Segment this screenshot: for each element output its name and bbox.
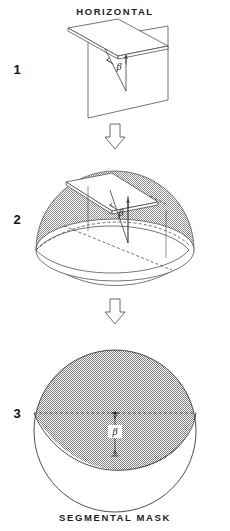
beta-label-panel-2: β [118, 207, 124, 218]
center-point-3 [113, 411, 116, 414]
panel-3-segmental-mask: 3 β SEGMENTAL MASK [13, 332, 196, 523]
title-horizontal: HORIZONTAL [76, 6, 154, 17]
flow-arrow-2-to-3 [105, 299, 125, 324]
title-segmental-mask: SEGMENTAL MASK [59, 512, 171, 523]
panel-1-horizontal: HORIZONTAL 1 β [13, 6, 168, 118]
panel-number-3: 3 [13, 406, 20, 421]
beta-label-panel-3: β [112, 426, 118, 437]
flow-arrow-1-to-2 [105, 124, 125, 149]
panel-number-2: 2 [13, 212, 20, 227]
panel-number-1: 1 [13, 62, 20, 77]
panel-2-sphere-projection: 2 β [13, 171, 194, 290]
segmental-mask-figure: HORIZONTAL 1 β 2 [0, 0, 230, 531]
down-arrow-glyph-1 [105, 124, 125, 149]
beta-label-panel-1: β [116, 61, 122, 72]
down-arrow-glyph-2 [105, 299, 125, 324]
segment-shaded-upper-3 [34, 332, 196, 413]
